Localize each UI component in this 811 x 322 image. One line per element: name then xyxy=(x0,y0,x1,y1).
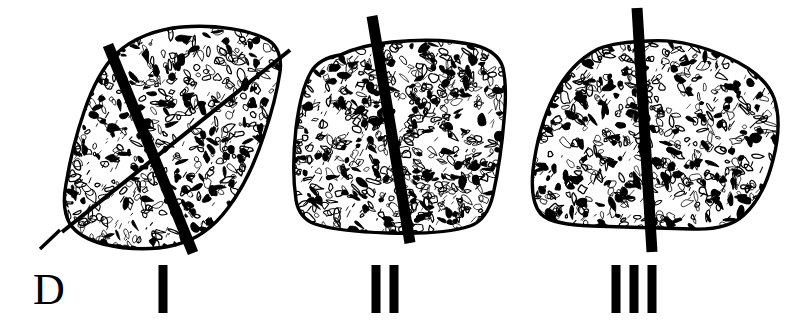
dorsal-direction-label: D xyxy=(33,268,65,312)
direction-marker-leader-line xyxy=(40,230,60,249)
numeral-stroke xyxy=(159,265,168,313)
specimens-group xyxy=(61,18,786,254)
figure-root: D xyxy=(0,0,811,322)
roman-numeral-iii xyxy=(612,265,657,313)
anatomical-figure-svg xyxy=(0,0,811,322)
roman-numeral-ii xyxy=(372,265,399,313)
roman-numerals-group xyxy=(159,265,657,313)
numeral-stroke xyxy=(612,265,621,313)
numeral-stroke xyxy=(630,265,639,313)
direction-marker-group xyxy=(40,230,60,249)
numeral-stroke xyxy=(648,265,657,313)
bone-section-iii xyxy=(528,32,785,235)
numeral-stroke xyxy=(372,265,381,313)
numeral-stroke xyxy=(390,265,399,313)
roman-numeral-i xyxy=(159,265,168,313)
